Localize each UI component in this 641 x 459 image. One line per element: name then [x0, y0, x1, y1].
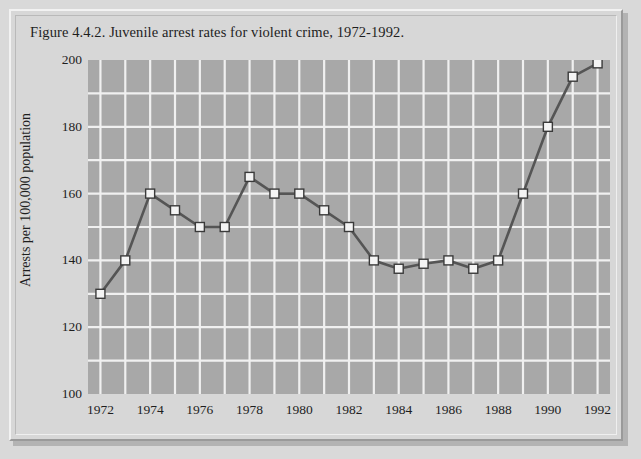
- data-point-marker: [96, 289, 105, 298]
- data-point-marker: [394, 264, 403, 273]
- data-point-marker: [543, 122, 552, 131]
- y-axis-tick-label: 180: [42, 119, 82, 135]
- y-axis-tick-labels: 100120140160180200: [40, 60, 82, 394]
- data-point-marker: [245, 172, 254, 181]
- plot-area: [88, 60, 610, 394]
- data-point-marker: [220, 223, 229, 232]
- x-axis-tick-label: 1990: [534, 402, 561, 418]
- x-axis-tick-label: 1984: [385, 402, 412, 418]
- y-axis-tick-label: 140: [42, 252, 82, 268]
- data-point-marker: [494, 256, 503, 265]
- figure-root: Figure 4.4.2. Juvenile arrest rates for …: [0, 0, 641, 459]
- y-axis-tick-label: 160: [42, 186, 82, 202]
- y-axis-tick-label: 120: [42, 319, 82, 335]
- data-point-marker: [295, 189, 304, 198]
- data-point-marker: [444, 256, 453, 265]
- chart-title: Figure 4.4.2. Juvenile arrest rates for …: [30, 24, 404, 41]
- x-axis-tick-label: 1978: [236, 402, 263, 418]
- data-point-marker: [519, 189, 528, 198]
- data-point-marker: [369, 256, 378, 265]
- figure-shadow-bottom: [13, 441, 628, 446]
- data-point-marker: [146, 189, 155, 198]
- x-axis-tick-label: 1986: [435, 402, 462, 418]
- x-axis-tick-label: 1972: [87, 402, 114, 418]
- data-point-marker: [568, 72, 577, 81]
- data-point-marker: [121, 256, 130, 265]
- figure-shadow-right: [623, 13, 628, 445]
- x-axis-tick-label: 1980: [286, 402, 313, 418]
- data-point-marker: [419, 259, 428, 268]
- x-axis-tick-label: 1982: [336, 402, 363, 418]
- x-axis-tick-label: 1988: [485, 402, 512, 418]
- data-point-marker: [195, 223, 204, 232]
- y-axis-title: Arrests per 100,000 population: [18, 70, 34, 330]
- data-point-marker: [171, 206, 180, 215]
- data-point-marker: [593, 60, 602, 68]
- x-axis-tick-label: 1974: [137, 402, 164, 418]
- data-point-marker: [320, 206, 329, 215]
- x-axis-tick-label: 1976: [186, 402, 213, 418]
- y-axis-tick-label: 100: [42, 386, 82, 402]
- y-axis-tick-label: 200: [42, 52, 82, 68]
- data-point-marker: [345, 223, 354, 232]
- line-chart-svg: [88, 60, 610, 394]
- data-point-marker: [469, 264, 478, 273]
- x-axis-tick-labels: 1972197419761978198019821984198619881990…: [88, 402, 610, 422]
- data-point-marker: [270, 189, 279, 198]
- x-axis-tick-label: 1992: [584, 402, 611, 418]
